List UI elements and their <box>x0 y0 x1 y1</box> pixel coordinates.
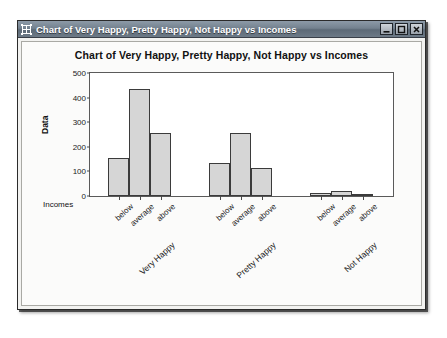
grid-app-icon <box>21 24 32 35</box>
minimize-button[interactable] <box>380 23 393 35</box>
chart-window: Chart of Very Happy, Pretty Happy, Not H… <box>17 20 426 310</box>
x-tick-label: above <box>356 202 378 223</box>
y-tick-mark <box>87 196 90 197</box>
bar <box>108 158 129 196</box>
close-button[interactable] <box>410 23 423 35</box>
window-client-area: Chart of Very Happy, Pretty Happy, Not H… <box>21 41 422 306</box>
x-tick-mark <box>342 196 343 200</box>
maximize-button[interactable] <box>395 23 408 35</box>
x-tick-mark <box>140 196 141 200</box>
y-tick-mark <box>87 73 90 74</box>
x-tick-mark <box>241 196 242 200</box>
x-tick-mark <box>321 196 322 200</box>
bar <box>129 89 150 196</box>
y-axis-label: Data <box>40 116 50 134</box>
bar-chart: Chart of Very Happy, Pretty Happy, Not H… <box>22 42 421 305</box>
y-tick-mark <box>87 146 90 147</box>
bar <box>209 163 230 196</box>
x-tick-mark <box>363 196 364 200</box>
x-axis-label: Incomes <box>43 200 73 209</box>
x-tick-mark <box>220 196 221 200</box>
x-tick-label: above <box>255 202 277 223</box>
window-controls <box>380 23 423 35</box>
window-titlebar[interactable]: Chart of Very Happy, Pretty Happy, Not H… <box>18 21 425 38</box>
x-tick-label: above <box>154 202 176 223</box>
bar <box>230 133 251 196</box>
group-label: Not Happy <box>342 240 379 274</box>
plot-area: 0100200300400500belowaverageaboveVery Ha… <box>89 72 394 197</box>
y-tick-mark <box>87 97 90 98</box>
x-tick-mark <box>262 196 263 200</box>
x-tick-mark <box>161 196 162 200</box>
group-label: Pretty Happy <box>234 240 277 280</box>
window-title: Chart of Very Happy, Pretty Happy, Not H… <box>36 24 376 35</box>
bar <box>251 168 272 196</box>
chart-title: Chart of Very Happy, Pretty Happy, Not H… <box>22 49 421 61</box>
x-tick-mark <box>119 196 120 200</box>
y-tick-mark <box>87 122 90 123</box>
group-label: Very Happy <box>137 240 176 277</box>
y-tick-mark <box>87 171 90 172</box>
bar <box>150 133 171 196</box>
